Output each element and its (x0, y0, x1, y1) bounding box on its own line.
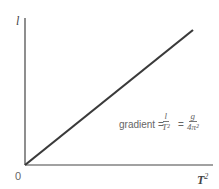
fraction-numerator: g (189, 111, 198, 122)
y-axis-label: l (16, 14, 19, 29)
fraction-denominator: T² (162, 122, 170, 133)
origin-label: 0 (15, 170, 21, 182)
x-axis-label-sup: 2 (204, 172, 208, 181)
fraction-l-over-t2: l T² (162, 111, 170, 133)
gradient-label: gradient = (119, 119, 164, 130)
fraction-g-over-4pi2: g 4π² (187, 111, 199, 133)
plot-area (0, 0, 219, 189)
x-axis-label: T2 (197, 172, 208, 188)
data-line (25, 30, 193, 165)
equals-sign: = (178, 119, 184, 130)
fraction-denominator: 4π² (187, 122, 199, 133)
fraction-numerator: l (163, 111, 170, 122)
